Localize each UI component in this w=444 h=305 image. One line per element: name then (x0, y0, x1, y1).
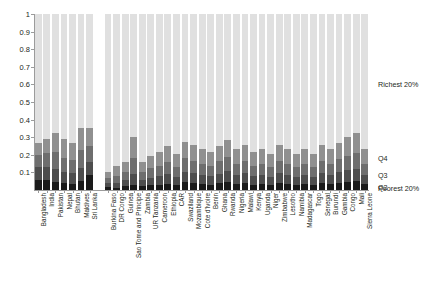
y-axis-tick (31, 49, 34, 50)
bar-segment (35, 167, 42, 180)
bar-segment (199, 175, 206, 184)
bar-segment (319, 14, 326, 145)
bar-segment (267, 167, 274, 177)
bar-segment (216, 161, 223, 173)
bar-segment (336, 183, 343, 190)
legend-label: Poorest 20% (378, 184, 419, 193)
bar-segment (35, 180, 42, 190)
bar-segment (35, 14, 42, 142)
bar-segment (224, 140, 231, 158)
x-axis-category-label: Cameroon (162, 193, 168, 222)
x-axis-category-label: Gambia (342, 193, 348, 215)
bar-stack (35, 14, 42, 190)
bar-segment (156, 176, 163, 184)
bar-stack (61, 14, 68, 190)
bar-segment (301, 149, 308, 163)
bar-segment (147, 168, 154, 178)
bar-segment (224, 157, 231, 171)
bar-segment (61, 14, 68, 139)
bar-segment (361, 164, 368, 175)
bar-segment (353, 169, 360, 181)
bar-segment (69, 14, 76, 143)
bar-segment (182, 158, 189, 171)
bar-segment (139, 162, 146, 172)
bar-stack (224, 14, 231, 190)
bar-segment (301, 175, 308, 184)
bar-segment (122, 172, 129, 180)
x-axis-category-label: Congo (350, 193, 356, 212)
bar-segment (69, 143, 76, 160)
bar-segment (267, 14, 274, 154)
bar-segment (293, 154, 300, 167)
x-axis-category-label: Sri Lanka (92, 193, 98, 220)
bar-segment (216, 146, 223, 162)
bar-segment (130, 14, 137, 137)
bar-segment (284, 175, 291, 184)
x-axis-category-label: Zimbabwe (282, 193, 288, 222)
x-axis-category-label: Mozambique (196, 193, 202, 229)
bar-stack (69, 14, 76, 190)
bar-segment (199, 149, 206, 163)
x-axis-category-label: Burkina Faso (111, 193, 117, 230)
bar-segment (224, 182, 231, 190)
x-axis-category-label: CAR (179, 193, 185, 206)
bar-segment (344, 182, 351, 190)
bar-segment (276, 173, 283, 183)
bar-segment (276, 161, 283, 173)
bar-segment (147, 156, 154, 168)
bar-stack (293, 14, 300, 190)
bar-stack (284, 14, 291, 190)
bar-segment (319, 173, 326, 183)
stacked-bar-chart: 0.10.20.30.40.50.60.70.80.91 BangladeshI… (0, 0, 444, 305)
bar-segment (78, 150, 85, 168)
bar-segment (164, 146, 171, 162)
bar-segment (156, 14, 163, 152)
bar-stack (182, 14, 189, 190)
y-axis-tick-label: 0.4 (20, 115, 30, 124)
bar-segment (182, 182, 189, 190)
x-axis-category-label: Cote d'Ivoire (205, 193, 211, 228)
bar-stack (78, 14, 85, 190)
bar-stack (361, 14, 368, 190)
bar-segment (216, 14, 223, 145)
x-axis-category-label: Nepal (67, 193, 73, 209)
bar-segment (113, 14, 120, 166)
y-axis-tick-label: 0.3 (20, 133, 30, 142)
bar-segment (78, 128, 85, 150)
bar-segment (139, 172, 146, 180)
bar-stack (319, 14, 326, 190)
bar-segment (327, 14, 334, 149)
bar-segment (190, 183, 197, 190)
bar-segment (250, 176, 257, 184)
bar-segment (156, 166, 163, 177)
bar-stack (216, 14, 223, 190)
bar-stack (156, 14, 163, 190)
x-axis-category-label: DR Congo (119, 193, 125, 222)
bar-stack (173, 14, 180, 190)
bar-segment (156, 152, 163, 166)
bar-segment (147, 178, 154, 185)
bar-segment (78, 181, 85, 190)
bar-segment (207, 152, 214, 166)
bar-segment (284, 164, 291, 175)
bar-segment (242, 161, 249, 173)
x-axis-category-label: Ethiopia (171, 193, 177, 216)
bar-segment (199, 164, 206, 175)
bar-segment (61, 158, 68, 172)
y-axis-tick (31, 155, 34, 156)
bar-segment (259, 164, 266, 175)
bar-stack (105, 14, 112, 190)
bar-segment (284, 14, 291, 149)
bar-segment (267, 154, 274, 167)
bar-segment (35, 143, 42, 155)
bar-segment (361, 14, 368, 149)
y-axis-tick-label: 0.7 (20, 62, 30, 71)
y-axis-tick-label: 0.8 (20, 45, 30, 54)
x-axis-category-label: Uganda (265, 193, 271, 215)
bar-stack (344, 14, 351, 190)
bar-segment (250, 14, 257, 152)
x-axis-category-label: Bangladesh (41, 193, 47, 226)
bar-segment (52, 152, 59, 169)
bar-segment (86, 175, 93, 190)
bar-segment (224, 171, 231, 182)
